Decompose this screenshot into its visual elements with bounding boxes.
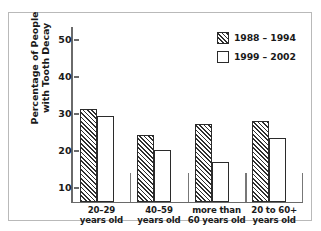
x-axis-label: 20–29years old bbox=[73, 205, 131, 226]
x-axis-label: 20 to 60+years old bbox=[245, 205, 303, 226]
x-axis-label-line: 40–59 bbox=[130, 205, 188, 215]
x-axis-label-line: more than bbox=[188, 205, 246, 215]
bar-group bbox=[130, 27, 188, 202]
group-separator bbox=[302, 173, 303, 202]
bar-group bbox=[73, 27, 131, 202]
legend-swatch bbox=[217, 51, 229, 63]
legend-label: 1988 – 1994 bbox=[234, 32, 296, 43]
x-axis-label-line: 20 to 60+ bbox=[245, 205, 303, 215]
legend-item: 1999 – 2002 bbox=[217, 48, 313, 65]
bar bbox=[137, 135, 154, 202]
group-separator bbox=[130, 173, 131, 202]
legend-label: 1999 – 2002 bbox=[234, 51, 296, 62]
bar bbox=[80, 109, 97, 202]
y-tick-label: 50 bbox=[58, 35, 71, 45]
bar bbox=[269, 138, 286, 202]
y-tick-label: 20 bbox=[58, 146, 71, 156]
bar bbox=[212, 162, 229, 202]
bar bbox=[195, 124, 212, 202]
x-axis-label: 40–59years old bbox=[130, 205, 188, 226]
y-axis-title: Percentage of People with Tooth Decay bbox=[24, 0, 58, 148]
chart-legend: 1988 – 19941999 – 2002 bbox=[217, 29, 313, 67]
x-axis-label-line: years old bbox=[130, 215, 188, 225]
bar bbox=[252, 121, 269, 202]
legend-item: 1988 – 1994 bbox=[217, 29, 313, 46]
y-tick-label: 40 bbox=[58, 72, 71, 82]
legend-swatch bbox=[217, 32, 229, 44]
bar bbox=[154, 150, 171, 202]
x-axis-label-line: years old bbox=[245, 215, 303, 225]
y-tick-label: 30 bbox=[58, 109, 71, 119]
chart-figure: Percentage of People with Tooth Decay 50… bbox=[8, 12, 312, 221]
x-axis-label-line: 60 years old bbox=[188, 215, 246, 225]
y-tick-label: 10 bbox=[58, 183, 71, 193]
bar bbox=[97, 116, 114, 202]
x-axis-category-labels: 20–29years old40–59years oldmore than60 … bbox=[71, 205, 303, 231]
group-separator bbox=[188, 173, 189, 202]
x-axis-label-line: 20–29 bbox=[73, 205, 131, 215]
group-separator bbox=[245, 173, 246, 202]
x-axis-label-line: years old bbox=[73, 215, 131, 225]
x-axis-label: more than60 years old bbox=[188, 205, 246, 226]
y-axis-title-line-2: with Tooth Decay bbox=[41, 23, 52, 113]
